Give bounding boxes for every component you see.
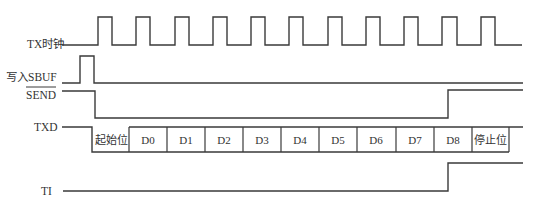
txd-bit-d5: D5 xyxy=(331,134,345,146)
txd-stop-bit: 停止位 xyxy=(474,133,507,146)
label-send: SEND xyxy=(26,89,56,101)
timing-diagram: TX时钟 写入SBUF SEND TXD TI 起始位 D0 D1 D2 D3 … xyxy=(0,0,537,204)
txd-bit-d3: D3 xyxy=(255,134,269,146)
tx-clock-waveform xyxy=(62,17,522,45)
label-ti: TI xyxy=(41,185,52,197)
txd-bit-d7: D7 xyxy=(408,134,422,146)
txd-bit-d6: D6 xyxy=(369,134,383,146)
txd-bit-d4: D4 xyxy=(293,134,307,146)
label-write-sbuf: 写入SBUF xyxy=(6,71,57,83)
txd-bit-d2: D2 xyxy=(217,134,230,146)
txd-bit-d1: D1 xyxy=(179,134,192,146)
send-waveform xyxy=(62,90,523,118)
txd-bit-d0: D0 xyxy=(141,134,155,146)
ti-waveform xyxy=(63,163,523,191)
txd-bit-d8: D8 xyxy=(446,134,460,146)
write-sbuf-waveform xyxy=(62,56,523,83)
txd-start-bit: 起始位 xyxy=(95,133,128,146)
label-txd: TXD xyxy=(34,121,58,133)
label-tx-clock: TX时钟 xyxy=(27,37,64,50)
